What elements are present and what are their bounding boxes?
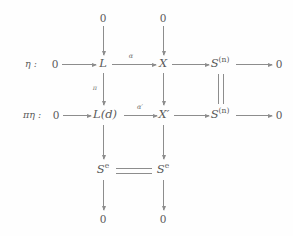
arrow-row2-zero-to-Ld	[63, 115, 91, 116]
zero-top-left: 0	[100, 13, 107, 24]
arrow-row1-zero-to-L	[62, 64, 96, 65]
object-row3-Se-right: Se	[157, 164, 169, 176]
object-row1-L: L	[99, 58, 107, 70]
arrow-row2-Ld-to-Xprime	[124, 115, 157, 116]
object-row1-X: X	[159, 58, 167, 70]
equality-Se-horizontal	[116, 168, 152, 174]
arrow-row2-Xprime-to-Sn	[174, 115, 209, 116]
arrow-label-pi: π	[93, 85, 97, 92]
object-row3-Se-right-superscript: e	[165, 161, 170, 170]
zero-row1-end: 0	[276, 59, 283, 70]
arrow-row2-Sn-to-zero	[236, 115, 272, 116]
arrow-down-top-left	[103, 26, 104, 55]
equality-Sn-vertical	[218, 74, 224, 104]
arrow-label-alpha: α	[129, 53, 133, 60]
arrow-down-Xprime-to-Se	[163, 125, 164, 159]
object-row2-Sn-base: S	[211, 107, 219, 121]
row-label-pi-eta: πη :	[23, 110, 41, 120]
arrow-down-Se-to-zero-right	[163, 180, 164, 210]
arrow-down-Se-to-zero-left	[103, 180, 104, 210]
object-row2-Ld: L(d)	[93, 109, 117, 121]
object-row3-Se-left-superscript: e	[105, 161, 110, 170]
object-row2-Sn-superscript: (n)	[219, 106, 230, 115]
arrow-label-alpha-prime: α′	[137, 104, 143, 111]
object-row3-Se-left: Se	[97, 164, 109, 176]
object-row3-Se-left-base: S	[97, 162, 105, 176]
object-row2-Sn: S(n)	[211, 109, 230, 121]
arrow-down-Ld-to-Se	[103, 125, 104, 159]
commutative-diagram: 0 0 η : 0 L α X S(n) 0 π πη : 0 L(d) α′ …	[0, 0, 293, 236]
arrow-down-top-right	[163, 26, 164, 55]
arrow-row1-L-to-X	[112, 64, 156, 65]
arrow-row1-Sn-to-zero	[236, 64, 272, 65]
object-row1-Sn-base: S	[211, 56, 219, 70]
zero-row1-start: 0	[52, 59, 59, 70]
arrow-down-L-to-Ld	[103, 73, 104, 105]
object-row2-Xprime: X′	[159, 109, 170, 121]
row-label-eta: η :	[25, 59, 37, 69]
zero-row2-end: 0	[276, 110, 283, 121]
zero-top-right: 0	[160, 13, 167, 24]
object-row1-Sn: S(n)	[211, 58, 230, 70]
arrow-row1-X-to-Sn	[172, 64, 209, 65]
arrow-down-X-to-Xprime	[163, 73, 164, 105]
zero-bottom-left: 0	[100, 214, 107, 225]
object-row3-Se-right-base: S	[157, 162, 165, 176]
zero-row2-start: 0	[53, 110, 60, 121]
object-row1-Sn-superscript: (n)	[219, 55, 230, 64]
zero-bottom-right: 0	[160, 214, 167, 225]
